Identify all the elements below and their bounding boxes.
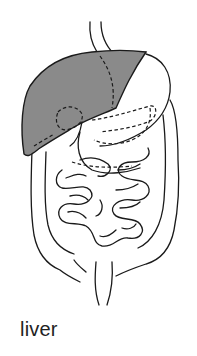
digestive-system-diagram <box>0 0 197 320</box>
organ-label: liver <box>20 318 58 341</box>
anatomy-illustration <box>0 0 197 320</box>
esophagus <box>90 22 114 54</box>
small-intestine <box>56 148 149 246</box>
